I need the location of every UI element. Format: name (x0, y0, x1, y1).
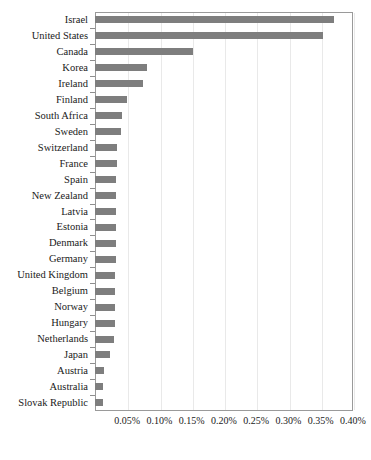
bar-row (95, 251, 353, 267)
category-label: New Zealand (0, 190, 88, 201)
x-axis-tick-label: 0.05% (114, 415, 140, 427)
bar[interactable] (95, 64, 147, 71)
category-label: United Kingdom (0, 269, 88, 280)
bar-row (95, 60, 353, 76)
category-label: Norway (0, 301, 88, 312)
bar[interactable] (95, 16, 334, 23)
bar-chart: IsraelUnited StatesCanadaKoreaIrelandFin… (0, 0, 371, 460)
bar-row (95, 331, 353, 347)
category-label: Latvia (0, 206, 88, 217)
bar[interactable] (95, 383, 103, 390)
category-label: Sweden (0, 126, 88, 137)
bar-row (95, 283, 353, 299)
category-label: Austria (0, 365, 88, 376)
bars-layer (95, 12, 353, 411)
bar[interactable] (95, 80, 143, 87)
category-label: South Africa (0, 110, 88, 121)
bar[interactable] (95, 128, 121, 135)
x-axis-tick-label: 0.35% (308, 415, 334, 427)
bar-row (95, 235, 353, 251)
bar[interactable] (95, 48, 193, 55)
category-label: Japan (0, 349, 88, 360)
category-label: Australia (0, 381, 88, 392)
bar-row (95, 156, 353, 172)
bar[interactable] (95, 176, 116, 183)
category-label: Slovak Republic (0, 397, 88, 408)
bar-row (95, 219, 353, 235)
category-label: Finland (0, 94, 88, 105)
bar[interactable] (95, 367, 104, 374)
x-axis-tick-labels: 0.05%0.10%0.15%0.20%0.25%0.30%0.35%0.40% (0, 415, 371, 435)
bar[interactable] (95, 192, 116, 199)
bar-row (95, 172, 353, 188)
category-label: United States (0, 30, 88, 41)
x-axis-tick-label: 0.40% (340, 415, 366, 427)
category-label: Hungary (0, 317, 88, 328)
bar[interactable] (95, 240, 116, 247)
gridline (354, 13, 355, 410)
bar[interactable] (95, 160, 117, 167)
bar[interactable] (95, 336, 114, 343)
category-label: Netherlands (0, 333, 88, 344)
category-label: France (0, 158, 88, 169)
bar[interactable] (95, 96, 127, 103)
category-label: Switzerland (0, 142, 88, 153)
bar-row (95, 315, 353, 331)
category-labels: IsraelUnited StatesCanadaKoreaIrelandFin… (0, 12, 88, 411)
category-label: Spain (0, 174, 88, 185)
category-label: Germany (0, 253, 88, 264)
bar-row (95, 44, 353, 60)
category-label: Estonia (0, 221, 88, 232)
bar-row (95, 347, 353, 363)
category-label: Canada (0, 46, 88, 57)
category-label: Ireland (0, 78, 88, 89)
bar-row (95, 363, 353, 379)
bar[interactable] (95, 304, 115, 311)
bar[interactable] (95, 144, 117, 151)
bar-row (95, 299, 353, 315)
bar-row (95, 395, 353, 411)
x-axis-tick-label: 0.20% (211, 415, 237, 427)
bar-row (95, 187, 353, 203)
bar-row (95, 140, 353, 156)
bar-row (95, 203, 353, 219)
bar[interactable] (95, 224, 116, 231)
bar[interactable] (95, 320, 115, 327)
x-axis-tick-label: 0.10% (147, 415, 173, 427)
x-axis-tick-label: 0.30% (276, 415, 302, 427)
bar[interactable] (95, 399, 103, 406)
bar[interactable] (95, 112, 122, 119)
category-label: Israel (0, 14, 88, 25)
bar[interactable] (95, 32, 323, 39)
bar[interactable] (95, 288, 115, 295)
bar[interactable] (95, 272, 115, 279)
x-axis-tick-label: 0.15% (179, 415, 205, 427)
bar-row (95, 92, 353, 108)
bar-row (95, 12, 353, 28)
bar-row (95, 76, 353, 92)
category-label: Belgium (0, 285, 88, 296)
bar[interactable] (95, 208, 116, 215)
bar-row (95, 124, 353, 140)
bar[interactable] (95, 351, 110, 358)
bar-row (95, 28, 353, 44)
bar[interactable] (95, 256, 116, 263)
bar-row (95, 108, 353, 124)
category-label: Denmark (0, 237, 88, 248)
category-label: Korea (0, 62, 88, 73)
x-axis-tick-label: 0.25% (243, 415, 269, 427)
bar-row (95, 379, 353, 395)
bar-row (95, 267, 353, 283)
